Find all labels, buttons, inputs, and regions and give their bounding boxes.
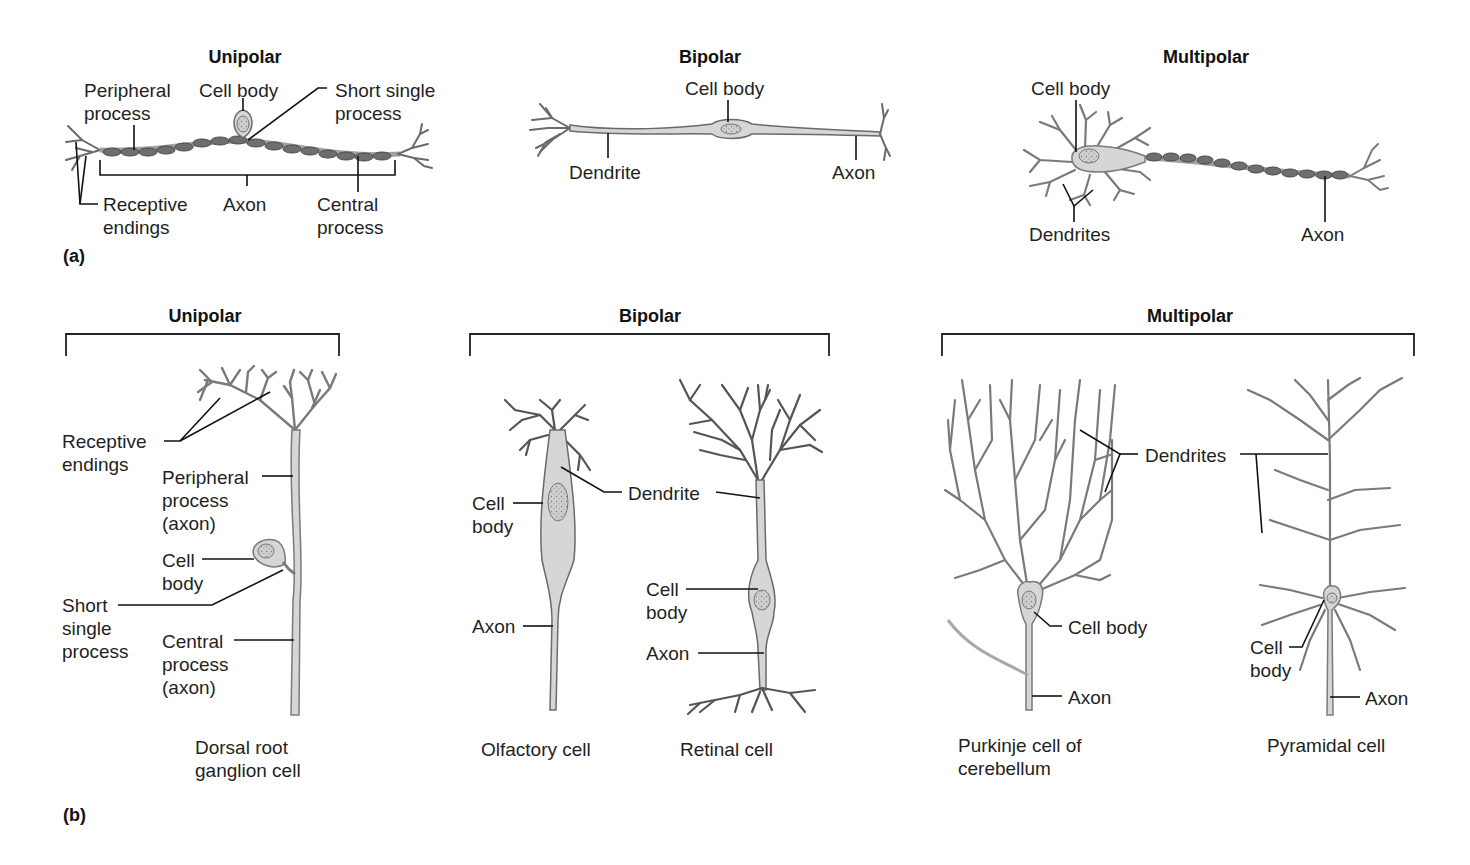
label-cell-body: Cell body [1068,616,1147,639]
label-dendrites: Dendrites [1145,444,1226,467]
label-peripheral-process: Peripheralprocess(axon) [162,466,249,535]
label-axon: Axon [646,642,689,665]
label-cell-body: Cellbody [646,578,687,624]
b-purkinje-cell [945,380,1115,710]
caption-purkinje-cell: Purkinje cell ofcerebellum [958,734,1082,780]
a-multipolar-title: Multipolar [1146,47,1266,68]
label-cell-body: Cell body [685,77,764,100]
label-dendrite: Dendrite [628,482,700,505]
receptive-endings-branches [66,126,100,170]
a-bipolar-neuron [530,104,890,160]
label-central-process: Centralprocess [317,193,384,239]
label-short-single-process: Shortsingleprocess [62,594,129,663]
b-retinal-cell [680,380,822,714]
label-receptive-endings: Receptiveendings [103,193,188,239]
caption-retinal-cell: Retinal cell [680,738,773,761]
b-olfactory-cell [505,400,590,710]
label-axon: Axon [472,615,515,638]
label-cell-body: Cellbody [162,549,203,595]
label-cell-body: Cellbody [1250,636,1291,682]
caption-pyramidal-cell: Pyramidal cell [1267,734,1385,757]
caption-dorsal-root-ganglion-cell: Dorsal rootganglion cell [195,736,301,782]
label-short-single-process: Short singleprocess [335,79,435,125]
a-multipolar-neuron [1024,105,1388,205]
label-dendrites: Dendrites [1029,223,1110,246]
label-central-process: Centralprocess(axon) [162,630,229,699]
a-bipolar-title: Bipolar [660,47,760,68]
label-axon: Axon [832,161,875,184]
panel-a-label: (a) [63,246,85,267]
b-bipolar-title: Bipolar [600,306,700,327]
label-axon: Axon [223,193,266,216]
label-axon: Axon [1365,687,1408,710]
caption-olfactory-cell: Olfactory cell [481,738,591,761]
label-cell-body: Cellbody [472,492,513,538]
b-unipolar-title: Unipolar [150,306,260,327]
label-cell-body: Cell body [1031,77,1110,100]
a-unipolar-title: Unipolar [190,47,300,68]
b-multipolar-title: Multipolar [1130,306,1250,327]
label-peripheral-process: Peripheralprocess [84,79,171,125]
label-axon: Axon [1301,223,1344,246]
panel-b-label: (b) [63,805,86,826]
label-receptive-endings: Receptiveendings [62,430,147,476]
label-axon: Axon [1068,686,1111,709]
label-cell-body: Cell body [199,79,278,102]
label-dendrite: Dendrite [569,161,641,184]
b-group-brackets [66,334,1414,356]
myelin-sheath [103,136,391,161]
b-multipolar-leader-lines [1032,430,1360,697]
